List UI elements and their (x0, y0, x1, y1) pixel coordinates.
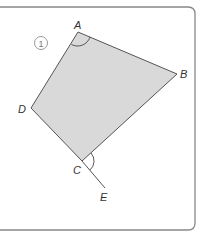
vertex-label-C: C (73, 164, 81, 176)
quadrilateral-ABCD (31, 32, 177, 161)
figure-number: 1 (38, 39, 43, 49)
vertex-label-D: D (18, 103, 26, 115)
vertex-label-A: A (73, 19, 81, 31)
diagram-canvas: 1 A B D C E (0, 0, 201, 234)
angle-mark-C (90, 153, 94, 170)
vertex-label-E: E (100, 191, 108, 203)
vertex-label-B: B (180, 68, 187, 80)
